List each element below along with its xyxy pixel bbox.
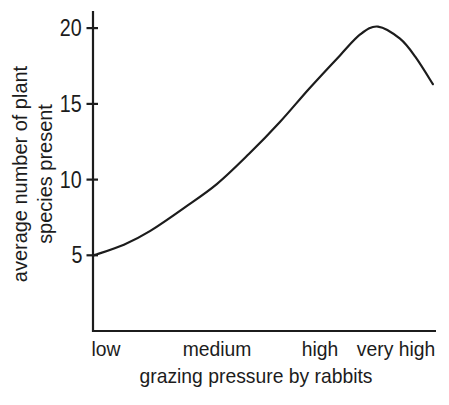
y-tick-label: 20 <box>60 16 82 40</box>
x-category-label: low <box>92 336 121 361</box>
data-curve <box>94 27 433 256</box>
y-axis-title: average number of plant species present <box>7 32 57 317</box>
x-category-label: high <box>302 336 339 361</box>
y-tick-label: 10 <box>60 167 82 191</box>
y-tick-label: 15 <box>60 91 82 115</box>
x-category-label: very high <box>357 336 435 361</box>
y-axis-title-line1: average number of plant <box>7 32 32 317</box>
y-axis-title-line2: species present <box>32 32 57 317</box>
axes-lines <box>93 11 436 331</box>
x-category-label: medium <box>183 336 252 361</box>
y-tick-label: 5 <box>71 243 82 267</box>
chart: 5101520 lowmediumhighvery high average n… <box>0 0 449 405</box>
x-axis-title: grazing pressure by rabbits <box>139 363 372 388</box>
